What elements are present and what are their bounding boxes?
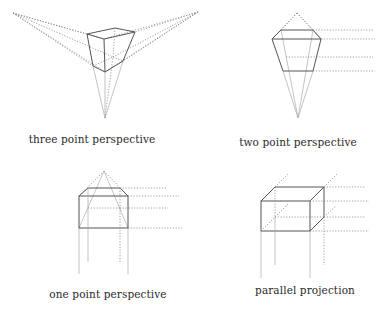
one-point-perspective-label: one point perspective [49,288,166,300]
parallel-projection-drawing [261,174,369,278]
two-point-perspective-label: two point perspective [239,136,357,148]
three-point-perspective-label: three point perspective [29,133,156,145]
three-point-perspective-drawing [13,12,198,118]
two-point-perspective-drawing [272,13,375,118]
one-point-perspective-drawing [79,171,182,274]
parallel-projection-label: parallel projection [255,284,355,296]
diagram-canvas [0,0,378,309]
